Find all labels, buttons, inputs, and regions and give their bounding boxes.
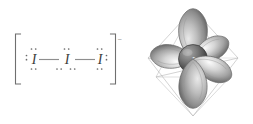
atom-symbol-left: I <box>31 52 38 67</box>
lone-pair-right-side <box>106 55 108 61</box>
atom-symbol-center: I <box>64 52 71 67</box>
lone-pair-center-bottom-right <box>70 68 76 70</box>
lone-pair-left-bottom <box>31 68 37 70</box>
orbital-diagram-svg: I <box>134 2 253 123</box>
lone-pair-left-side <box>26 55 28 61</box>
orbital-diagram-panel: I <box>134 2 253 123</box>
atom-symbol-right: I <box>97 52 104 67</box>
lone-pair-center-bottom-left <box>56 68 62 70</box>
chemistry-figure: – I I <box>0 0 253 124</box>
lewis-structure-panel: – I I <box>10 28 132 90</box>
lone-pair-right-top <box>97 48 103 50</box>
bracket-left <box>16 34 21 84</box>
bracket-right <box>111 34 116 84</box>
lewis-structure-svg: – I I <box>10 28 132 90</box>
lone-pair-left-top <box>31 48 37 50</box>
lewis-atom-right: I <box>97 48 108 70</box>
charge-superscript: – <box>117 35 122 43</box>
lewis-atom-center: I <box>56 48 75 70</box>
lone-pair-center-top <box>64 48 70 50</box>
lewis-atom-left: I <box>26 48 38 70</box>
lone-pair-right-bottom <box>97 68 103 70</box>
